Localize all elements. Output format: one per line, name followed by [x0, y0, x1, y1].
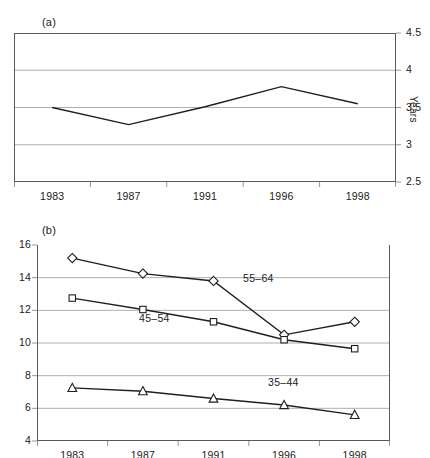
- panel-a-tag: (a): [42, 16, 56, 28]
- data-point-marker: [352, 346, 358, 352]
- y-tick-label: 10: [5, 336, 31, 348]
- panel-a-series: [52, 87, 358, 125]
- chart-panel-b: (b) 46810121416 19831987199119961998 55–…: [0, 210, 430, 458]
- x-tick-label: 1998: [328, 190, 388, 202]
- panel-b-series: [68, 253, 360, 418]
- x-tick-label: 1983: [22, 190, 82, 202]
- data-point-marker: [68, 253, 77, 262]
- panel-a-plot-area: [14, 33, 396, 182]
- y-tick-label: 6: [5, 401, 31, 413]
- series-label-45-54: 45–54: [139, 312, 170, 324]
- data-point-marker: [350, 317, 359, 326]
- data-point-marker: [281, 337, 287, 343]
- x-tick-label: 1991: [184, 449, 244, 458]
- figure: (a) 2.533.544.5 19831987199119961998 Yea…: [0, 0, 430, 458]
- panel-a-gridlines: [14, 70, 396, 145]
- x-tick-label: 1998: [325, 449, 385, 458]
- x-tick-label: 1996: [251, 190, 311, 202]
- panel-a-x-ticks: [15, 33, 402, 187]
- y-tick-label: 12: [5, 303, 31, 315]
- data-point-marker: [210, 319, 216, 325]
- y-tick-label: 16: [5, 238, 31, 250]
- x-tick-label: 1987: [113, 449, 173, 458]
- panel-b-plot-area: [37, 245, 390, 441]
- series-label-55-64: 55–64: [243, 272, 274, 284]
- y-tick-label: 2.5: [406, 175, 421, 187]
- y-tick-label: 4: [406, 63, 412, 75]
- data-line-series-0: [52, 87, 358, 125]
- panel-a-y-axis-title: Years: [408, 96, 419, 123]
- x-tick-label: 1987: [99, 190, 159, 202]
- data-point-marker: [69, 295, 75, 301]
- data-point-marker: [138, 269, 147, 278]
- y-tick-label: 14: [5, 271, 31, 283]
- y-tick-label: 4.5: [406, 26, 421, 38]
- panel-b-svg: [37, 245, 390, 441]
- panel-a-svg: [14, 33, 396, 182]
- x-tick-label: 1983: [42, 449, 102, 458]
- y-tick-label: 8: [5, 369, 31, 381]
- panel-b-tag: (b): [42, 224, 56, 236]
- x-tick-label: 1996: [254, 449, 314, 458]
- y-tick-label: 3: [406, 138, 412, 150]
- panel-b-x-ticks: [32, 245, 390, 446]
- y-tick-label: 4: [5, 434, 31, 446]
- chart-panel-a: (a) 2.533.544.5 19831987199119961998 Yea…: [0, 0, 430, 210]
- series-label-35-44: 35–44: [268, 376, 299, 388]
- x-tick-label: 1991: [175, 190, 235, 202]
